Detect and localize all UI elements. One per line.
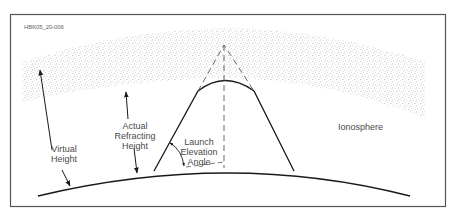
virtual-height-label-line1: Virtual (44, 144, 84, 154)
launch-angle-label-line2: Elevation (179, 147, 219, 157)
virtual-height-arrow-down (62, 170, 70, 186)
actual-height-label-line2: Refracting (112, 131, 158, 141)
ionosphere-layer (22, 28, 425, 118)
launch-elevation-angle-label: Launch Elevation Angle (179, 137, 219, 167)
actual-height-arrow-up (126, 92, 128, 119)
virtual-height-label: Virtual Height (44, 144, 84, 164)
ionospheric-propagation-diagram (0, 0, 456, 213)
actual-refracting-height-label: Actual Refracting Height (112, 121, 158, 151)
actual-height-label-line3: Height (112, 141, 158, 151)
earth-surface (38, 173, 410, 196)
ionosphere-label: Ionosphere (338, 122, 383, 132)
actual-height-arrow-down (134, 148, 137, 173)
actual-height-label-line1: Actual (112, 121, 158, 131)
virtual-height-label-line2: Height (44, 154, 84, 164)
figure-id-label: HBK05_20-006 (24, 24, 64, 30)
launch-angle-label-line1: Launch (179, 137, 219, 147)
launch-angle-label-line3: Angle (179, 157, 219, 167)
